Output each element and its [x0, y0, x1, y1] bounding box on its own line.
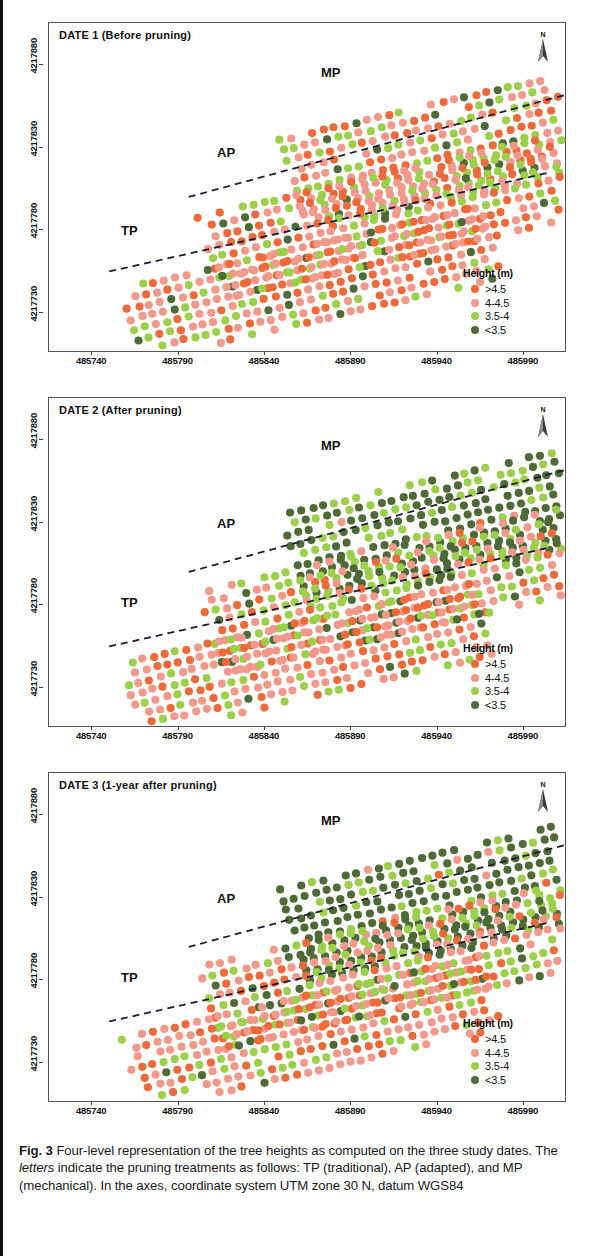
tree-dot	[503, 196, 511, 204]
y-tick-label: 4217880	[28, 413, 39, 449]
tree-dot	[484, 506, 492, 514]
tree-dot	[483, 577, 491, 585]
tree-dot	[224, 701, 232, 709]
tree-dot	[374, 247, 382, 255]
tree-dot	[330, 666, 338, 674]
tree-dot	[415, 174, 423, 182]
zone-label-tp: TP	[121, 223, 138, 238]
tree-dot	[480, 533, 488, 541]
tree-dot	[397, 189, 405, 197]
tree-dot	[453, 856, 461, 864]
tree-dot	[536, 859, 544, 867]
tree-dot	[310, 504, 318, 512]
tree-dot	[505, 913, 513, 921]
tree-dot	[317, 946, 325, 954]
tree-dot	[337, 598, 345, 606]
legend-item-h1: >4.5	[471, 1033, 555, 1045]
tree-dot	[420, 998, 428, 1006]
tree-dot	[501, 186, 509, 194]
tree-dot	[428, 611, 436, 619]
y-tick-label: 4217830	[28, 871, 39, 907]
tree-dot	[511, 184, 519, 192]
tree-dot	[390, 640, 398, 648]
tree-dot	[283, 987, 291, 995]
tree-dot	[369, 174, 377, 182]
tree-dot	[540, 915, 548, 923]
tree-dot	[384, 994, 392, 1002]
tree-dot	[298, 265, 306, 273]
tree-dot	[445, 220, 453, 228]
tree-dot	[468, 569, 476, 577]
tree-dot	[374, 113, 382, 121]
tree-dot	[178, 1043, 186, 1051]
tree-dot	[309, 208, 317, 216]
tree-dot	[179, 293, 187, 301]
tree-dot	[522, 588, 530, 596]
tree-dot	[412, 667, 420, 675]
tree-dot	[502, 116, 510, 124]
tree-dot	[301, 650, 309, 658]
tree-dot	[323, 135, 331, 143]
tree-dot	[209, 1067, 217, 1075]
y-tick-mark	[39, 64, 43, 65]
tree-dot	[279, 897, 287, 905]
tree-dot	[127, 316, 135, 324]
panel-date1: DATE 1 (Before pruning)TPAPMPNHeight (m)…	[3, 0, 598, 375]
tree-dot	[504, 83, 512, 91]
tree-dot	[320, 125, 328, 133]
tree-dot	[363, 116, 371, 124]
tree-dot	[338, 619, 346, 627]
tree-dot	[158, 683, 166, 691]
tree-dot	[538, 155, 546, 163]
tree-dot	[471, 204, 479, 212]
tree-dot	[348, 274, 356, 282]
tree-dot	[492, 198, 500, 206]
tree-dot	[490, 531, 498, 539]
x-tick-label: 485840	[249, 355, 280, 366]
tree-dot	[142, 1041, 150, 1049]
tree-dot	[270, 979, 278, 987]
tree-dot	[413, 533, 421, 541]
tree-dot	[319, 1010, 327, 1018]
tree-dot	[528, 122, 536, 130]
tree-dot	[404, 210, 412, 218]
tree-dot	[433, 255, 441, 263]
tree-dot	[467, 248, 475, 256]
tree-dot	[316, 898, 324, 906]
tree-dot	[470, 632, 478, 640]
tree-dot	[441, 650, 449, 658]
tree-dot	[484, 545, 492, 553]
tree-dot	[272, 647, 280, 655]
tree-dot	[549, 116, 557, 124]
y-tick-label: 4217780	[28, 578, 39, 614]
tree-dot	[304, 1069, 312, 1077]
tree-dot	[131, 701, 139, 709]
tree-dot	[281, 944, 289, 952]
tree-dot	[532, 587, 540, 595]
tree-dot	[310, 958, 318, 966]
tree-dot	[208, 1025, 216, 1033]
y-tick-label: 4217880	[28, 788, 39, 824]
tree-dot	[456, 593, 464, 601]
tree-dot	[391, 232, 399, 240]
tree-dot	[393, 179, 401, 187]
tree-dot	[438, 1014, 446, 1022]
tree-dot	[276, 885, 284, 893]
tree-dot	[229, 302, 237, 310]
tree-dot	[529, 168, 537, 176]
tree-dot	[230, 216, 238, 224]
tree-dot	[365, 197, 373, 205]
x-tick-label: 485790	[162, 355, 193, 366]
tree-dot	[325, 521, 333, 529]
tree-dot	[378, 1009, 386, 1017]
tree-dot	[473, 580, 481, 588]
tree-dot	[517, 499, 525, 507]
tree-dot	[372, 280, 380, 288]
tree-dot	[388, 154, 396, 162]
tree-dot	[332, 1018, 340, 1026]
tree-dot	[454, 284, 462, 292]
tree-dot	[246, 1071, 254, 1079]
tree-dot	[546, 969, 554, 977]
tree-dot	[155, 330, 163, 338]
x-tick-label: 485740	[76, 1105, 107, 1116]
